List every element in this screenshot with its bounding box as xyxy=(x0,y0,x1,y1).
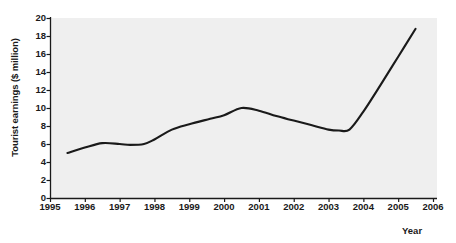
chart-figure: Tourist earnings ($ million) 02468101214… xyxy=(0,0,456,243)
x-axis-tick-2006: 2006 xyxy=(413,202,453,212)
y-axis-tick-marks xyxy=(47,19,51,199)
